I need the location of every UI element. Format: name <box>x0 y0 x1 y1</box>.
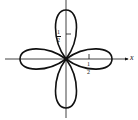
numerator: 1 <box>57 29 60 35</box>
y-tick-label: 1 2 <box>56 29 61 43</box>
x-tick-label: 1 2 <box>86 61 91 75</box>
numerator: 1 <box>87 61 90 67</box>
denominator: 2 <box>87 69 90 75</box>
denominator: 2 <box>57 37 60 43</box>
x-axis-label: x <box>130 54 134 62</box>
rose-curve-plot <box>0 0 138 120</box>
origin-dot <box>64 57 68 61</box>
